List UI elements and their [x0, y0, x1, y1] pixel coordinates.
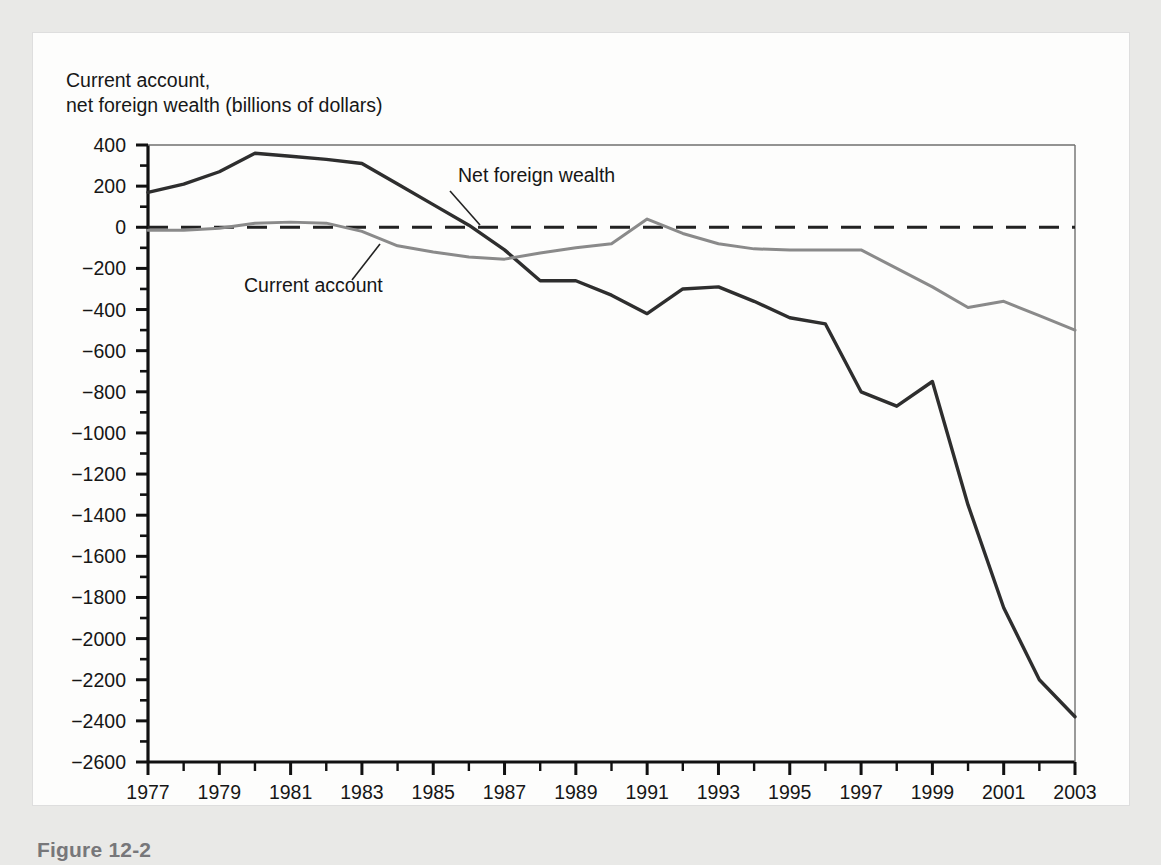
y-tick-label: −200: [82, 257, 126, 279]
y-tick-label: −1600: [71, 545, 126, 567]
y-tick-label: −2200: [71, 669, 126, 691]
x-tick-label: 1993: [697, 781, 740, 803]
x-tick-label: 2001: [982, 781, 1025, 803]
x-tick-label: 1991: [625, 781, 668, 803]
x-tick-label: 1979: [198, 781, 241, 803]
chart-plot: 4002000−200−400−600−800−1000−1200−1400−1…: [0, 0, 1161, 865]
y-tick-label: −600: [82, 340, 126, 362]
x-tick-label: 1985: [412, 781, 456, 803]
y-tick-label: −1800: [71, 586, 126, 608]
y-tick-label: −1000: [71, 422, 126, 444]
x-tick-label: 1977: [126, 781, 169, 803]
y-tick-label: −400: [82, 299, 126, 321]
x-tick-label: 1987: [483, 781, 526, 803]
x-tick-label: 1999: [911, 781, 954, 803]
y-tick-label: −1400: [71, 504, 126, 526]
figure-caption: Figure 12-2: [37, 838, 151, 862]
y-axis: 4002000−200−400−600−800−1000−1200−1400−1…: [71, 134, 148, 773]
y-tick-label: 200: [93, 175, 126, 197]
y-tick-label: 400: [93, 134, 126, 156]
y-tick-label: −800: [82, 381, 126, 403]
x-tick-label: 1981: [269, 781, 312, 803]
x-tick-label: 1983: [340, 781, 383, 803]
series-annotations: Net foreign wealthCurrent account: [244, 164, 615, 296]
y-tick-label: −2400: [71, 710, 126, 732]
y-tick-label: −1200: [71, 463, 126, 485]
y-tick-label: −2000: [71, 628, 126, 650]
y-tick-label: 0: [115, 216, 126, 238]
x-tick-label: 1989: [554, 781, 597, 803]
y-tick-label: −2600: [71, 751, 126, 773]
figure-page: Current account, net foreign wealth (bil…: [0, 0, 1161, 865]
series-line: [148, 153, 1075, 717]
net-foreign-wealth-annotation: Net foreign wealth: [458, 164, 615, 186]
x-tick-label: 1995: [768, 781, 812, 803]
x-tick-label: 1997: [839, 781, 882, 803]
data-series-group: [148, 153, 1075, 717]
x-tick-label: 2003: [1053, 781, 1096, 803]
current-account-annotation: Current account: [244, 274, 383, 296]
